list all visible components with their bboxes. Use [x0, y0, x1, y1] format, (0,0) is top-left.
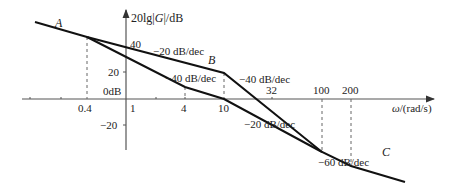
x-tick-200: 200: [342, 84, 359, 96]
slope-final: −60 dB/dec: [318, 156, 369, 168]
slope-lower-second: −20 dB/dec: [244, 118, 295, 130]
slope-upper-first: −20 dB/dec: [153, 45, 204, 57]
x-tick-0.4: 0.4: [78, 102, 92, 114]
bode-plot-canvas: 20lg|G|/dB ω/(rad/s) 40 20 0dB −20 0.4 1…: [0, 0, 451, 190]
x-axis-label: ω/(rad/s): [392, 102, 432, 115]
point-a-label: A: [54, 16, 63, 30]
x-tick-4: 4: [181, 102, 187, 114]
x-tick-10: 10: [218, 102, 230, 114]
y-tick-40: 40: [130, 38, 142, 50]
slope-lower-first: −40 dB/dec: [165, 72, 216, 84]
bode-diagram: 20lg|G|/dB ω/(rad/s) 40 20 0dB −20 0.4 1…: [0, 0, 451, 190]
x-tick-32: 32: [266, 84, 277, 96]
x-tick-1: 1: [130, 102, 136, 114]
x-tick-100: 100: [313, 84, 330, 96]
point-c-label: C: [382, 145, 391, 159]
y-tick-neg20: −20: [100, 119, 118, 131]
lower-magnitude-curve: [87, 37, 322, 152]
slope-upper-second: −40 dB/dec: [239, 73, 290, 85]
y-axis-label: 20lg|G|/dB: [131, 11, 183, 25]
point-b-label: B: [208, 53, 216, 67]
y-tick-0db: 0dB: [103, 85, 121, 97]
y-tick-20: 20: [108, 66, 120, 78]
